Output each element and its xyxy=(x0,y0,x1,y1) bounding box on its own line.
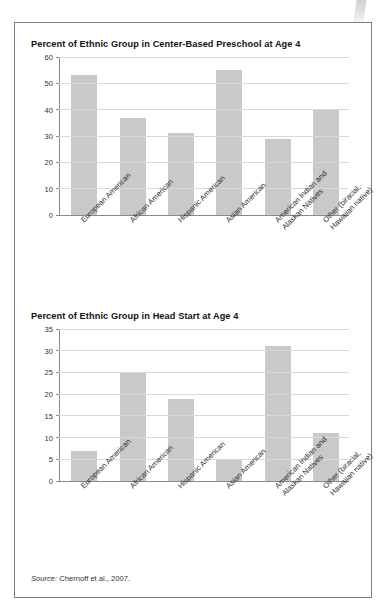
y-tick-label-60: 60 xyxy=(45,53,53,62)
y-tick-35 xyxy=(56,329,59,330)
gridline-60 xyxy=(59,57,349,58)
gridline-35 xyxy=(59,329,349,330)
y-tick-label-30: 30 xyxy=(45,132,53,141)
source-note: Source: Chernoff et al., 2007. xyxy=(31,574,130,583)
bar-preschool-0 xyxy=(71,75,97,215)
y-tick-25 xyxy=(56,372,59,373)
y-tick-label-0: 0 xyxy=(49,211,53,220)
scan-artifact xyxy=(353,0,366,22)
y-tick-label-25: 25 xyxy=(45,368,53,377)
y-tick-label-10: 10 xyxy=(45,433,53,442)
y-tick-label-20: 20 xyxy=(45,390,53,399)
chart-title-head-start: Percent of Ethnic Group in Head Start at… xyxy=(15,305,371,321)
y-tick-label-5: 5 xyxy=(49,455,53,464)
bar-preschool-3 xyxy=(216,70,242,215)
y-tick-5 xyxy=(56,459,59,460)
gridline-20 xyxy=(59,394,349,395)
plot-wrap-preschool: 0102030405060 European AmericanAfrican A… xyxy=(31,57,371,215)
bar-head-start-4 xyxy=(265,346,291,481)
y-tick-20 xyxy=(56,162,59,163)
y-tick-15 xyxy=(56,415,59,416)
y-tick-10 xyxy=(56,437,59,438)
gridline-15 xyxy=(59,415,349,416)
gridline-30 xyxy=(59,136,349,137)
y-tick-10 xyxy=(56,188,59,189)
y-tick-label-50: 50 xyxy=(45,79,53,88)
plot-area-head-start: 05101520253035 European AmericanAfrican … xyxy=(31,329,349,481)
y-axis-labels-head-start: 05101520253035 xyxy=(31,329,57,481)
y-tick-20 xyxy=(56,394,59,395)
gridline-40 xyxy=(59,109,349,110)
gridline-20 xyxy=(59,162,349,163)
y-tick-label-40: 40 xyxy=(45,105,53,114)
chart-head-start: Percent of Ethnic Group in Head Start at… xyxy=(15,305,371,555)
y-tick-label-10: 10 xyxy=(45,184,53,193)
y-tick-label-0: 0 xyxy=(49,477,53,486)
plot-area-preschool: 0102030405060 European AmericanAfrican A… xyxy=(31,57,349,215)
gridline-50 xyxy=(59,83,349,84)
gridline-30 xyxy=(59,350,349,351)
source-citation: Chernoff et al., 2007. xyxy=(57,574,130,583)
y-axis-labels-preschool: 0102030405060 xyxy=(31,57,57,215)
y-tick-30 xyxy=(56,350,59,351)
gridline-25 xyxy=(59,372,349,373)
source-label: Source: xyxy=(31,574,57,583)
x-axis-labels-head-start: European AmericanAfrican AmericanHispani… xyxy=(59,481,349,559)
bar-head-start-1 xyxy=(120,372,146,481)
y-tick-40 xyxy=(56,109,59,110)
chart-center-based-preschool: Percent of Ethnic Group in Center-Based … xyxy=(15,33,371,305)
gridline-10 xyxy=(59,437,349,438)
plot-wrap-head-start: 05101520253035 European AmericanAfrican … xyxy=(31,329,371,481)
chart-title-preschool: Percent of Ethnic Group in Center-Based … xyxy=(15,33,371,49)
y-tick-50 xyxy=(56,83,59,84)
y-tick-label-35: 35 xyxy=(45,325,53,334)
y-tick-60 xyxy=(56,57,59,58)
y-tick-label-20: 20 xyxy=(45,158,53,167)
figure-container: Percent of Ethnic Group in Center-Based … xyxy=(14,22,372,598)
y-tick-30 xyxy=(56,136,59,137)
bar-preschool-1 xyxy=(120,118,146,215)
y-tick-label-30: 30 xyxy=(45,346,53,355)
x-axis-labels-preschool: European AmericanAfrican AmericanHispani… xyxy=(59,215,349,293)
y-tick-label-15: 15 xyxy=(45,411,53,420)
